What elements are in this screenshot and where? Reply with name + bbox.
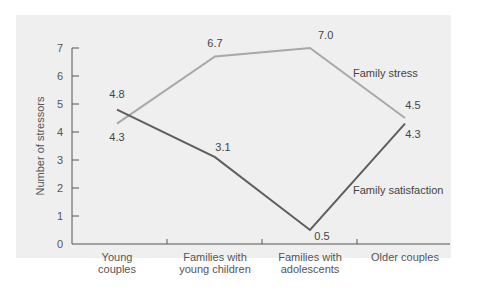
family-stress-value: 4.5: [405, 99, 420, 111]
family-stress-value: 4.3: [109, 131, 124, 143]
y-tick-label: 3: [57, 154, 63, 166]
x-category-label: Older couples: [371, 251, 439, 263]
line-chart: 01234567 YoungcouplesFamilies withyoung …: [0, 0, 488, 304]
y-tick-label: 2: [57, 182, 63, 194]
y-axis-title: Number of stressors: [34, 96, 46, 196]
family-satisfaction-value: 3.1: [215, 141, 230, 153]
family-satisfaction-label: Family satisfaction: [353, 184, 443, 196]
x-category-label: Families with: [278, 251, 342, 263]
family-satisfaction-value: 4.8: [109, 88, 124, 100]
x-category-label: young children: [179, 263, 251, 275]
y-tick-label: 4: [57, 126, 63, 138]
family-stress-value: 7.0: [318, 29, 333, 41]
x-category-label: couples: [98, 263, 136, 275]
y-tick-label: 7: [57, 42, 63, 54]
family-satisfaction-value: 0.5: [314, 230, 329, 242]
chart-background: [16, 15, 451, 258]
y-tick-label: 6: [57, 70, 63, 82]
family-satisfaction-value: 4.3: [405, 128, 420, 140]
x-category-label: Families with: [183, 251, 247, 263]
y-tick-label: 0: [57, 238, 63, 250]
x-category-label: Young: [102, 251, 133, 263]
y-tick-label: 5: [57, 98, 63, 110]
family-stress-value: 6.7: [207, 37, 222, 49]
x-category-label: adolescents: [281, 263, 340, 275]
y-tick-label: 1: [57, 210, 63, 222]
family-stress-label: Family stress: [353, 67, 418, 79]
